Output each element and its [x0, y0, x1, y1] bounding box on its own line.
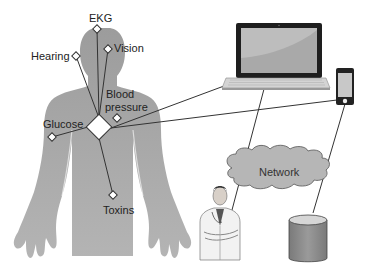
doctor-icon	[200, 186, 240, 260]
label-ekg: EKG	[89, 12, 112, 24]
smartphone-icon	[336, 68, 354, 105]
network-cloud-icon: Network	[227, 145, 329, 189]
diagram-canvas: EKG Vision Hearing Blood pressure Glucos…	[0, 0, 366, 274]
label-hearing: Hearing	[31, 50, 70, 62]
label-glucose: Glucose	[43, 118, 83, 130]
sensor-hearing	[72, 52, 80, 60]
label-vision: Vision	[114, 42, 144, 54]
label-toxins: Toxins	[103, 204, 135, 216]
laptop-icon	[222, 23, 330, 90]
human-body-silhouette	[14, 28, 191, 258]
label-network: Network	[259, 166, 300, 178]
database-icon	[289, 215, 327, 262]
label-blood-pressure-2: pressure	[105, 101, 148, 113]
label-blood-pressure-1: Blood	[106, 88, 134, 100]
